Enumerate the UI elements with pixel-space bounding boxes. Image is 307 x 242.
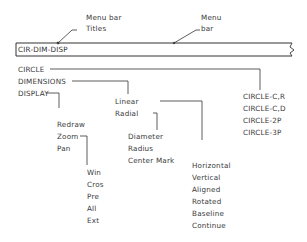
submenu-item-diameter[interactable]: Diameter <box>128 132 163 141</box>
menu-item-circle-cr[interactable]: CIRCLE-C,R <box>243 92 285 101</box>
submenu-item-all[interactable]: All <box>87 204 97 213</box>
menu-item-redraw[interactable]: Redraw <box>57 120 85 129</box>
callout-menu-bar-line1: Menu <box>201 13 222 22</box>
submenu-item-pre[interactable]: Pre <box>87 192 99 201</box>
submenu-item-win[interactable]: Win <box>87 168 101 177</box>
submenu-item-baseline[interactable]: Baseline <box>192 209 224 218</box>
menu-item-linear[interactable]: Linear <box>115 97 139 106</box>
menu-item-radial[interactable]: Radial <box>115 109 138 118</box>
menu-item-pan[interactable]: Pan <box>57 144 71 153</box>
submenu-item-ext[interactable]: Ext <box>87 216 99 225</box>
submenu-item-radius[interactable]: Radius <box>128 144 153 153</box>
submenu-item-horizontal[interactable]: Horizontal <box>192 161 231 170</box>
menu-title-display[interactable]: DISPLAY <box>18 89 49 98</box>
callout-menu-bar-titles-line1: Menu bar <box>86 13 122 22</box>
callout-menu-bar-titles-line2: Titles <box>86 24 106 33</box>
menu-bar[interactable]: CIR-DIM-DISP <box>18 45 68 54</box>
menu-item-circle-3p[interactable]: CIRCLE-3P <box>243 128 282 137</box>
menu-title-circle[interactable]: CIRCLE <box>18 65 45 74</box>
submenu-item-continue[interactable]: Continue <box>192 221 226 230</box>
menu-item-circle-2p[interactable]: CIRCLE-2P <box>243 116 282 125</box>
callout-menu-bar-line2: bar <box>201 24 214 33</box>
submenu-item-vertical[interactable]: Vertical <box>192 173 221 182</box>
submenu-item-aligned[interactable]: Aligned <box>192 185 220 194</box>
submenu-item-center-mark[interactable]: Center Mark <box>128 156 174 165</box>
menu-item-zoom[interactable]: Zoom <box>57 132 79 141</box>
submenu-item-rotated[interactable]: Rotated <box>192 197 222 206</box>
menu-title-dimensions[interactable]: DIMENSIONS <box>18 77 66 86</box>
submenu-item-cros[interactable]: Cros <box>87 180 104 189</box>
menu-item-circle-cd[interactable]: CIRCLE-C,D <box>243 104 286 113</box>
